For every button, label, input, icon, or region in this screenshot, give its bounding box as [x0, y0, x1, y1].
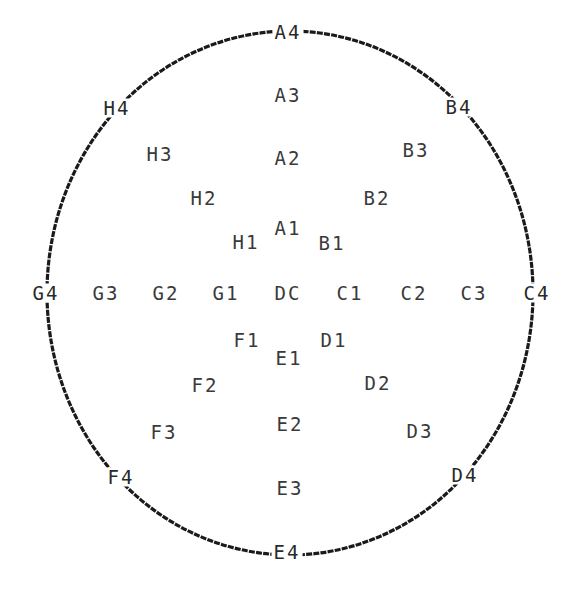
position-label-e1: E1: [274, 349, 305, 368]
position-label-h4: H4: [102, 99, 133, 118]
position-label-d2: D2: [363, 374, 394, 393]
position-label-g2: G2: [151, 284, 182, 303]
position-label-a4: A4: [273, 23, 304, 42]
position-label-g3: G3: [91, 284, 122, 303]
position-label-f1: F1: [232, 331, 263, 350]
position-label-e3: E3: [275, 479, 306, 498]
position-label-c3: C3: [459, 284, 490, 303]
position-label-f3: F3: [149, 423, 180, 442]
position-label-g1: G1: [211, 284, 242, 303]
position-label-d4: D4: [450, 466, 481, 485]
position-label-d1: D1: [319, 331, 350, 350]
position-label-b2: B2: [362, 189, 393, 208]
electrode-map: DC A4A3A2A1B1B2B3B4C1C2C3C4D1D2D3D4E1E2E…: [0, 0, 573, 589]
position-label-d3: D3: [405, 422, 436, 441]
position-label-f4: F4: [106, 468, 137, 487]
position-label-a2: A2: [273, 149, 304, 168]
position-label-e4: E4: [272, 543, 303, 562]
position-label-a3: A3: [273, 86, 304, 105]
position-label-h3: H3: [145, 145, 176, 164]
position-label-a1: A1: [273, 219, 304, 238]
position-label-b1: B1: [317, 234, 348, 253]
position-label-b4: B4: [444, 98, 475, 117]
position-label-c4: C4: [522, 284, 553, 303]
position-label-c1: C1: [335, 284, 366, 303]
position-label-c2: C2: [399, 284, 430, 303]
center-label-dc: DC: [273, 284, 304, 303]
position-label-g4: G4: [31, 284, 62, 303]
position-label-b3: B3: [401, 141, 432, 160]
position-label-h1: H1: [231, 233, 262, 252]
position-label-e2: E2: [275, 415, 306, 434]
position-label-h2: H2: [189, 189, 220, 208]
position-label-f2: F2: [190, 376, 221, 395]
